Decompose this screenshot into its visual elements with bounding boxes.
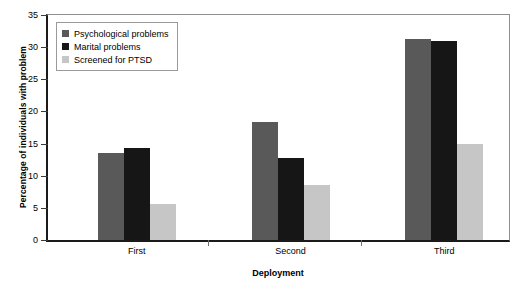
y-axis-tick-label: 5	[33, 203, 38, 213]
bar-first-series-1	[124, 148, 150, 240]
y-axis-tick-label: 35	[28, 10, 38, 20]
legend-swatch-icon	[62, 30, 69, 37]
legend-item: Marital problems	[62, 40, 169, 53]
bar-second-series-0	[252, 122, 278, 240]
y-axis-tick-label: 15	[28, 139, 38, 149]
y-axis-title: Percentage of individuals with problem	[18, 12, 28, 242]
legend-item-label: Screened for PTSD	[74, 55, 152, 65]
y-axis-tick	[41, 144, 48, 145]
x-axis-group-label-third: Third	[434, 246, 455, 256]
bar-second-series-1	[278, 158, 304, 240]
y-axis-tick	[41, 208, 48, 209]
bar-third-series-0	[405, 39, 431, 240]
y-axis-tick	[41, 240, 48, 241]
bar-third-series-1	[431, 41, 457, 240]
legend-item-label: Psychological problems	[74, 29, 169, 39]
y-axis-tick	[41, 111, 48, 112]
legend-item-label: Marital problems	[74, 42, 141, 52]
y-axis-tick	[41, 79, 48, 80]
y-axis-tick	[41, 47, 48, 48]
bar-first-series-2	[150, 204, 176, 240]
x-axis-separator-tick	[361, 240, 362, 246]
legend-item: Psychological problems	[62, 27, 169, 40]
y-axis-tick-label: 20	[28, 106, 38, 116]
bar-first-series-0	[98, 153, 124, 240]
y-axis-tick-label: 25	[28, 74, 38, 84]
y-axis-tick-label: 10	[28, 171, 38, 181]
chart-legend: Psychological problemsMarital problemsSc…	[56, 22, 178, 71]
legend-item: Screened for PTSD	[62, 53, 169, 66]
x-axis-separator-tick	[208, 240, 209, 246]
y-axis-tick-label: 30	[28, 42, 38, 52]
x-axis-group-label-second: Second	[275, 246, 306, 256]
bar-chart-figure: Percentage of individuals with problem 0…	[0, 0, 524, 290]
legend-swatch-icon	[62, 56, 69, 63]
y-axis-tick-label: 0	[33, 235, 38, 245]
bar-third-series-2	[457, 144, 483, 240]
y-axis-tick	[41, 176, 48, 177]
legend-swatch-icon	[62, 43, 69, 50]
x-axis-title: Deployment	[46, 268, 510, 278]
y-axis-tick	[41, 15, 48, 16]
x-axis-group-label-first: First	[128, 246, 146, 256]
bar-second-series-2	[304, 185, 330, 240]
